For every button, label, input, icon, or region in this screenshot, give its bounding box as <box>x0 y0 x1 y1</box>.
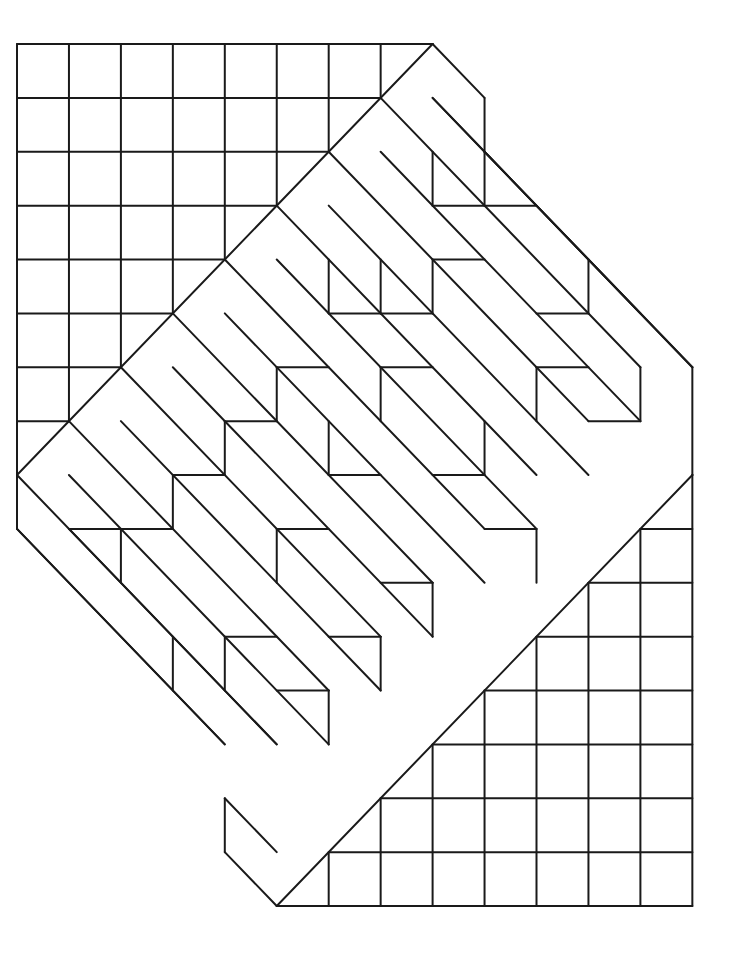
outline-edge <box>225 852 277 906</box>
staircase-grid-diagram <box>0 0 731 955</box>
strip-edge <box>225 260 485 529</box>
strip-edge <box>173 367 433 636</box>
outline-edge <box>225 798 277 852</box>
strip-edge <box>329 206 589 475</box>
strip-edge <box>329 152 589 421</box>
strip-edge <box>121 367 381 636</box>
strip-edge <box>121 421 381 690</box>
strip-edge <box>277 260 537 529</box>
strip-edge <box>173 313 433 582</box>
strip-edge <box>69 421 329 690</box>
strip-edge <box>225 313 485 582</box>
strip-edge <box>277 206 537 475</box>
strip-edge <box>69 475 329 744</box>
strip-edge <box>381 152 641 421</box>
outline-edge <box>433 44 485 98</box>
strip-edge <box>381 98 641 367</box>
